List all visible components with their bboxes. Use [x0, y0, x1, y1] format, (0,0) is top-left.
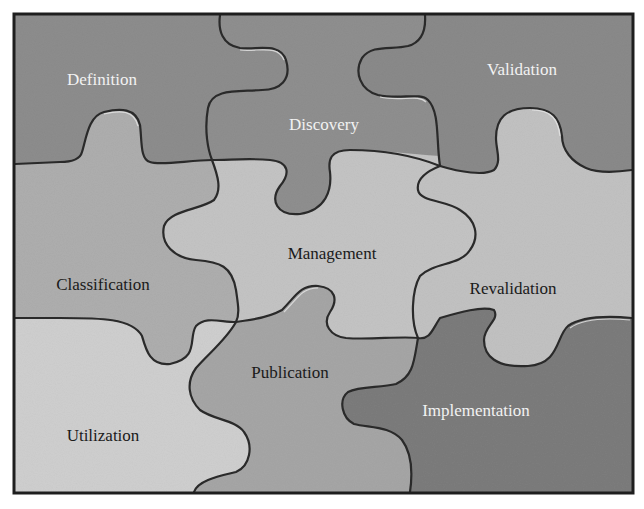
label-discovery: Discovery: [289, 115, 359, 134]
label-classification: Classification: [56, 275, 150, 294]
puzzle-svg: Definition Discovery Validation Classifi…: [0, 0, 644, 509]
puzzle-diagram: Definition Discovery Validation Classifi…: [0, 0, 644, 509]
label-publication: Publication: [251, 363, 329, 382]
label-utilization: Utilization: [67, 426, 140, 445]
label-revalidation: Revalidation: [470, 279, 557, 298]
label-validation: Validation: [487, 60, 557, 79]
label-management: Management: [288, 244, 377, 263]
label-definition: Definition: [67, 70, 137, 89]
label-implementation: Implementation: [422, 401, 530, 420]
